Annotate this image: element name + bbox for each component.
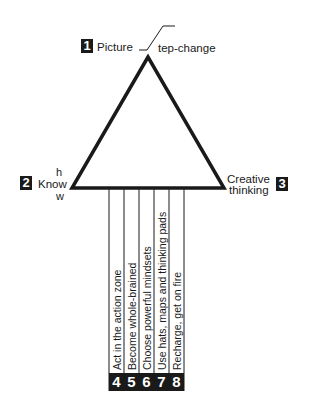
branch-6-number: 6 [139,373,155,391]
branch-5-label: Become whole-brained [125,263,139,370]
node-1-label: Picture [97,41,133,53]
node-2-number: 2 [20,176,32,190]
branch-7-label: Use hats, maps and thinking pads [155,212,169,370]
node-1-step-change: tep-change [158,42,216,54]
branch-6-label: Choose powerful mindsets [140,246,154,370]
node-3-label-line2: thinking [229,184,269,196]
node-1-number: 1 [81,39,93,53]
branch-7-number: 7 [154,373,170,391]
node-3-number: 3 [276,177,288,191]
triangle [72,57,224,188]
branch-8-label: Recharge, get on fire [170,272,184,370]
node-2-label: Know [38,178,67,190]
node-2-superscript: h [56,166,62,178]
branch-4-label: Act in the action zone [110,270,124,370]
branch-8-number: 8 [169,373,184,391]
branch-4-number: 4 [109,373,125,391]
node-2-subscript: w [56,190,64,202]
branch-5-number: 5 [124,373,140,391]
